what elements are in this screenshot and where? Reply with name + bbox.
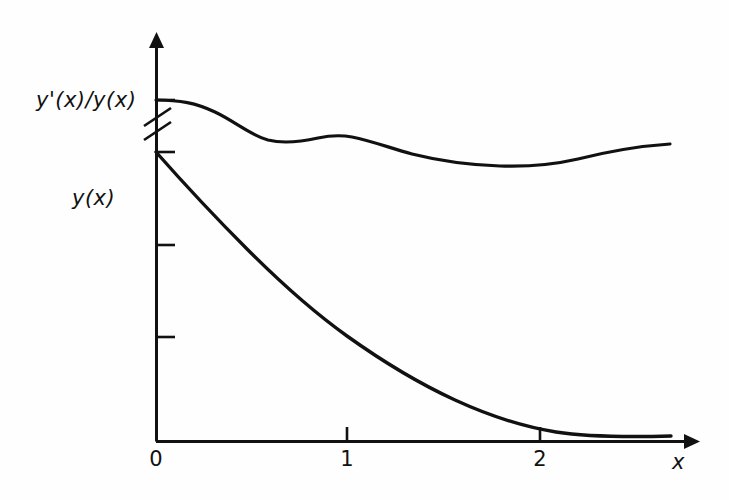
y-axis [149, 32, 164, 442]
decay-curve-label: y(x) [72, 186, 115, 210]
x-axis-label: x [672, 450, 684, 474]
figure-canvas [0, 0, 729, 500]
x-tick-label-2: 2 [528, 447, 552, 471]
x-tick-label-0: 0 [144, 447, 168, 471]
ratio-curve-label: y'(x)/y(x) [36, 88, 136, 112]
curve-decay [156, 152, 671, 437]
x-axis-arrowhead [684, 434, 700, 449]
x-tick-label-1: 1 [335, 447, 359, 471]
curve-ratio [156, 100, 670, 166]
x-axis-ticks [347, 427, 540, 442]
y-axis-ticks [157, 100, 176, 337]
y-axis-arrowhead [149, 32, 164, 48]
